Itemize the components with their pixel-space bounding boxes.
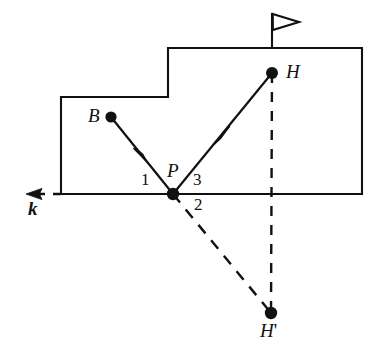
segment-label-3: 3 <box>193 171 202 188</box>
segment-label-2: 2 <box>194 196 203 213</box>
point-label-H-prime-letter: H <box>260 320 274 341</box>
perpendicular-dashed-line <box>271 73 272 313</box>
point-H-prime-dot <box>265 307 277 319</box>
geometry-diagram <box>0 0 381 361</box>
point-label-H: H <box>286 62 300 81</box>
segment-label-1: 1 <box>141 171 150 188</box>
axis-label-k: k <box>28 199 38 218</box>
incident-ray-arrowhead-icon <box>134 149 147 162</box>
point-label-H-prime-mark: ' <box>274 320 277 341</box>
reflected-ray-arrowhead-icon <box>215 127 230 145</box>
point-label-P: P <box>167 161 179 180</box>
point-label-H-prime: H' <box>260 321 277 340</box>
point-H-dot <box>266 67 278 79</box>
point-P-dot <box>167 188 179 200</box>
reflected-ray-segment <box>173 73 272 194</box>
figure-canvas: B P H H' 1 2 3 k <box>0 0 381 361</box>
building-outline <box>61 48 362 194</box>
flag-pennant-icon <box>273 14 299 30</box>
virtual-ray-segment <box>173 194 271 313</box>
point-label-B: B <box>88 106 100 125</box>
point-B-dot <box>105 111 116 122</box>
